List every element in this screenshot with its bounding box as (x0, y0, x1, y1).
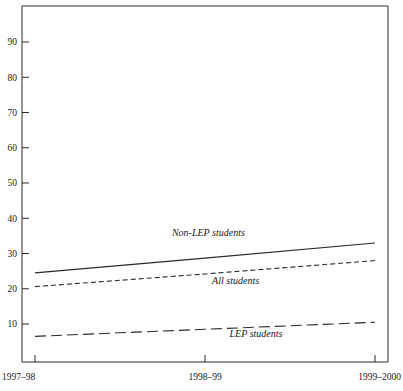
y-axis-tick-labels: 102030405060708090 (8, 37, 18, 329)
y-tick-label-10: 10 (8, 319, 18, 329)
y-tick-label-80: 80 (8, 73, 18, 83)
series-line-non-lep-students (35, 243, 375, 273)
y-axis-ticks (22, 42, 29, 324)
series-inline-labels: Non-LEP studentsAll studentsLEP students (171, 227, 283, 339)
line-chart: 102030405060708090 1997–981998–991999–20… (0, 0, 403, 391)
y-tick-label-60: 60 (8, 143, 18, 153)
series-label-non-lep-students: Non-LEP students (171, 227, 245, 238)
y-tick-label-50: 50 (8, 178, 18, 188)
y-tick-label-20: 20 (8, 284, 18, 294)
y-tick-label-70: 70 (8, 108, 18, 118)
x-tick-label-0: 1997–98 (2, 372, 36, 382)
series-label-all-students: All students (211, 275, 259, 286)
series-line-lep-students (35, 322, 375, 336)
chart-container: 102030405060708090 1997–981998–991999–20… (0, 0, 403, 391)
x-tick-label-2: 1999–2000 (358, 372, 401, 382)
y-tick-label-30: 30 (8, 249, 18, 259)
y-tick-label-40: 40 (8, 214, 18, 224)
x-tick-label-1: 1998–99 (188, 372, 222, 382)
x-axis-ticks (35, 355, 375, 362)
series-label-lep-students: LEP students (229, 328, 283, 339)
plot-frame (22, 6, 388, 362)
y-tick-label-90: 90 (8, 37, 18, 47)
data-series-lines (35, 243, 375, 336)
series-line-all-students (35, 261, 375, 287)
x-axis-tick-labels: 1997–981998–991999–2000 (2, 372, 401, 382)
